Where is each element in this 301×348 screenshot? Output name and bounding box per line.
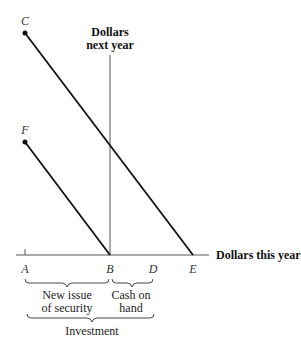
point-F-dot [23,140,28,145]
line-CE [25,33,193,255]
x-axis-label: Dollars this year [216,248,301,262]
cash-label-line1: Cash on [112,288,151,302]
brace-cash-on-hand [112,279,153,287]
new-issue-label-line1: New issue [42,288,92,302]
y-axis-label-line1: Dollars [91,25,129,39]
brace-new-issue [25,279,109,287]
cash-label-line2: hand [119,301,142,315]
new-issue-label-line2: of security [42,301,93,315]
label-D: D [148,262,158,276]
intertemporal-diagram: Dollars next year Dollars this year C F … [0,0,301,348]
label-B: B [106,262,114,276]
line-FB [25,142,110,255]
brace-investment [27,314,154,322]
label-C: C [21,14,30,28]
label-F: F [20,123,29,137]
y-axis-label-line2: next year [86,38,134,52]
label-A: A [20,262,29,276]
point-C-dot [23,31,28,36]
label-E: E [188,262,197,276]
investment-label: Investment [65,324,119,338]
